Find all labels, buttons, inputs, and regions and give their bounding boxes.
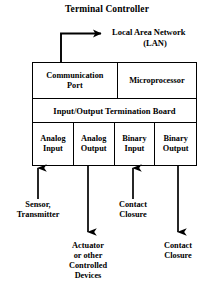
- analog-output-line2: Output: [81, 144, 107, 154]
- controller-row-middle: Input/Output Termination Board: [33, 99, 196, 123]
- block-binary-output: Binary Output: [155, 123, 196, 165]
- caption-contact-closure-input: Contact Closure: [103, 200, 163, 220]
- sensor-transmitter-line2: Transmitter: [0, 210, 80, 220]
- binary-input-line1: Binary: [122, 134, 146, 144]
- sensor-transmitter-line1: Sensor,: [0, 200, 80, 210]
- lan-label: Local Area Network (LAN): [112, 27, 212, 48]
- caption-actuator-controlled-devices: Actuator or other Controlled Devices: [48, 241, 128, 281]
- actuator-line3: Controlled: [48, 261, 128, 271]
- binary-output-line2: Output: [163, 144, 189, 154]
- contact-closure-input-line2: Closure: [103, 210, 163, 220]
- controller-row-top: Communication Port Microprocessor: [33, 63, 196, 99]
- lan-connector: [61, 34, 101, 63]
- controller-row-bottom: Analog Input Analog Output Binary Input …: [33, 123, 196, 165]
- caption-contact-closure-output: Contact Closure: [148, 241, 208, 261]
- analog-output-line1: Analog: [81, 134, 107, 144]
- block-analog-output: Analog Output: [74, 123, 115, 165]
- lan-label-line2: (LAN): [112, 38, 198, 49]
- block-io-termination-board: Input/Output Termination Board: [33, 99, 196, 122]
- actuator-line4: Devices: [48, 271, 128, 281]
- io-termination-board-label: Input/Output Termination Board: [53, 106, 175, 116]
- contact-closure-output-line1: Contact: [148, 241, 208, 251]
- microprocessor-label: Microprocessor: [129, 76, 184, 86]
- actuator-line2: or other: [48, 251, 128, 261]
- binary-output-line1: Binary: [163, 134, 189, 144]
- page-title: Terminal Controller: [0, 4, 214, 14]
- binary-input-line2: Input: [122, 144, 146, 154]
- block-binary-input: Binary Input: [115, 123, 156, 165]
- block-analog-input: Analog Input: [33, 123, 74, 165]
- analog-input-line2: Input: [40, 144, 65, 154]
- block-communication-port: Communication Port: [33, 63, 118, 98]
- communication-port-line1: Communication: [46, 71, 103, 81]
- communication-port-line2: Port: [46, 81, 103, 91]
- caption-sensor-transmitter: Sensor, Transmitter: [0, 200, 80, 220]
- block-microprocessor: Microprocessor: [118, 63, 196, 98]
- terminal-controller-box: Communication Port Microprocessor Input/…: [32, 62, 197, 166]
- contact-closure-output-line2: Closure: [148, 251, 208, 261]
- analog-input-line1: Analog: [40, 134, 65, 144]
- lan-label-line1: Local Area Network: [112, 27, 186, 37]
- actuator-line1: Actuator: [48, 241, 128, 251]
- diagram-canvas: Terminal Controller Local Area Network (…: [0, 0, 214, 297]
- contact-closure-input-line1: Contact: [103, 200, 163, 210]
